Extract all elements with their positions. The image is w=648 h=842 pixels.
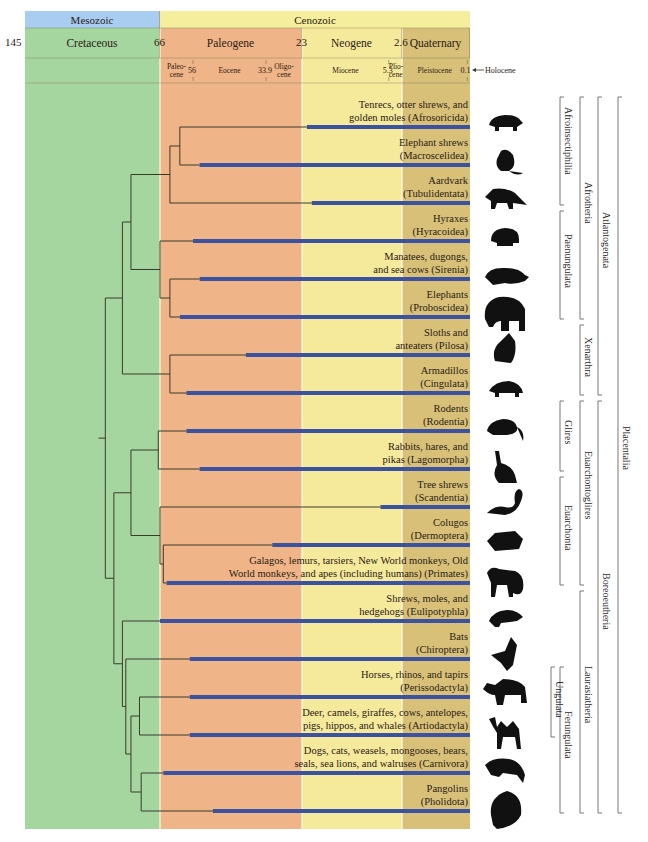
colugo-icon (487, 531, 523, 551)
leaf-label-pilosa: Sloths and anteaters (Pilosa) (395, 327, 468, 352)
leaf-label-hyracoidea: Hyraxes (Hyracoidea) (413, 213, 468, 238)
rabbit-icon (494, 451, 517, 483)
epoch-boundary-1: 33.9 (258, 66, 272, 75)
clade-label-atlantogenata: Atlantogenata (601, 212, 612, 268)
leaf-label-artiodactyla: Deer, camels, giraffes, cows, antelopes,… (302, 707, 468, 732)
leaf-label-cingulata: Armadillos (Cingulata) (420, 365, 468, 390)
clade-label-placentalia: Placentalia (621, 426, 632, 470)
leaf-label-eulipotyphla: Shrews, moles, and hedgehogs (Eulipotyph… (359, 593, 468, 618)
leaf-label-rodentia: Rodents (Rodentia) (423, 403, 468, 428)
leaf-label-sirenia: Manatees, dugongs, and sea cows (Sirenia… (373, 251, 468, 276)
epoch-label: Pleistocene (402, 67, 467, 75)
period-label-quaternary: Quaternary (402, 28, 470, 58)
clade-label-xenarthra: Xenarthra (583, 337, 594, 377)
period-boundary-0: 145 (5, 36, 22, 48)
bat-icon (491, 637, 517, 671)
period-band-paleogene (160, 28, 302, 829)
holocene-arrowhead (472, 68, 476, 72)
epoch-boundary-3: 0.1 (460, 66, 470, 75)
carnivore-icon (485, 759, 525, 783)
tree-shrew-icon (487, 489, 523, 515)
rhino-icon (483, 679, 527, 705)
era-label-mesozoic: Mesozoic (25, 11, 160, 28)
leaf-label-dermoptera: Colugos (Dermoptera) (411, 517, 468, 542)
leaf-label-macroscelidea: Elephant shrews (Macroscelidea) (399, 137, 468, 162)
camel-icon (489, 717, 521, 749)
aardvark-icon (485, 189, 527, 210)
leaf-label-pholidota: Pangolins (Pholidota) (421, 783, 468, 808)
epoch-label: Eocene (193, 67, 266, 75)
epoch-label: Miocene (302, 67, 389, 75)
period-label-paleogene: Paleogene (160, 28, 302, 58)
manatee-icon (485, 268, 529, 285)
epoch-boundary-2: 5.3 (383, 66, 393, 75)
epoch-boundary-0: 56 (188, 66, 196, 75)
leaf-label-carnivora: Dogs, cats, weasels, mongooses, bears, s… (295, 745, 469, 770)
clade-label-boreoeutheria: Boreoeutheria (601, 573, 612, 630)
phylogeny-figure: MesozoicCenozoicCretaceousPaleogeneNeoge… (0, 0, 648, 842)
leaf-label-proboscidea: Elephants (Proboscidea) (410, 289, 468, 314)
clade-label-ferungulata: Ferungulata (563, 711, 574, 759)
leaf-label-perissodactyla: Horses, rhinos, and tapirs (Perissodacty… (361, 669, 468, 694)
period-boundary-2: 23 (296, 36, 307, 48)
sloth-icon (494, 333, 516, 363)
elephant-shrew-icon (497, 150, 524, 175)
leaf-label-chiroptera: Bats (Chiroptera) (416, 631, 468, 656)
clade-label-glires: Glires (563, 420, 574, 444)
clade-label-afroinsectiphilia: Afroinsectiphilia (563, 107, 574, 175)
period-boundary-1: 66 (154, 36, 165, 48)
rodent-icon (487, 419, 523, 441)
holocene-label: Holocene (485, 66, 516, 75)
tenrec-icon (489, 115, 523, 131)
leaf-label-primates: Galagos, lemurs, tarsiers, New World mon… (229, 555, 468, 580)
period-boundary-3: 2.6 (394, 36, 408, 48)
clade-label-paenungulata: Paenungulata (563, 234, 574, 288)
period-label-cretaceous: Cretaceous (25, 28, 160, 58)
armadillo-icon (489, 381, 523, 397)
clade-label-euarchonta: Euarchonta (563, 505, 574, 551)
leaf-label-lagomorpha: Rabbits, hares, and pikas (Lagomorpha) (383, 441, 468, 466)
elephant-icon (485, 297, 525, 331)
clade-label-euarchontoglires: Euarchontoglires (583, 451, 594, 519)
shrew-icon (489, 610, 523, 627)
period-label-neogene: Neogene (302, 28, 402, 58)
pangolin-icon (491, 791, 521, 829)
primate-icon (487, 568, 523, 597)
era-label-cenozoic: Cenozoic (160, 11, 470, 28)
hyrax-icon (491, 228, 519, 246)
leaf-label-scandentia: Tree shrews (Scandentia) (415, 479, 468, 504)
clade-label-afrotheria: Afrotheria (583, 182, 594, 224)
leaf-label-tubulidentata: Aardvark (Tubulidentata) (403, 175, 468, 200)
leaf-label-afrosoricida: Tenrecs, otter shrews, and golden moles … (349, 99, 468, 124)
clade-label-laurasiatheria: Laurasiatheria (583, 666, 594, 723)
